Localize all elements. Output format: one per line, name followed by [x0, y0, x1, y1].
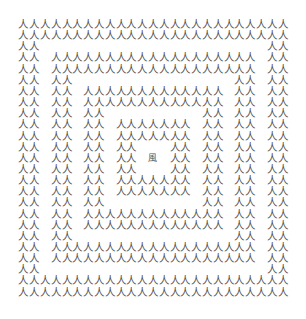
grid-character: 人: [223, 287, 234, 298]
grid-character: 人: [115, 119, 126, 130]
grid-character: 人: [126, 30, 137, 41]
grid-character: 人: [256, 287, 267, 298]
grid-character: 人: [115, 131, 126, 142]
grid-character: 人: [212, 131, 223, 142]
grid-character: 人: [148, 287, 159, 298]
grid-character: 人: [137, 287, 148, 298]
grid-character: 人: [94, 275, 105, 286]
grid-character: 人: [234, 131, 245, 142]
grid-character: 人: [158, 253, 169, 264]
grid-character: 人: [18, 119, 29, 130]
grid-character: 人: [29, 119, 40, 130]
grid-character: 人: [83, 64, 94, 75]
grid-character: 人: [212, 253, 223, 264]
grid-character: 人: [169, 186, 180, 197]
grid-character: 人: [202, 275, 213, 286]
grid-character: 人: [148, 52, 159, 63]
grid-character: 人: [72, 275, 83, 286]
grid-character: 人: [126, 220, 137, 231]
grid-character: 人: [245, 131, 256, 142]
grid-character: 人: [148, 64, 159, 75]
grid-character: 人: [115, 275, 126, 286]
grid-character: 人: [50, 275, 61, 286]
grid-character: 人: [50, 30, 61, 41]
grid-character: 人: [126, 119, 137, 130]
grid-character: 人: [169, 220, 180, 231]
grid-character: 人: [158, 220, 169, 231]
grid-character: 人: [115, 97, 126, 108]
grid-character: 人: [191, 275, 202, 286]
grid-character: 人: [72, 52, 83, 63]
grid-character: 人: [50, 119, 61, 130]
grid-character: 人: [277, 197, 288, 208]
grid-character: 人: [61, 119, 72, 130]
grid-character: 人: [104, 97, 115, 108]
grid-character: 人: [115, 30, 126, 41]
grid-character: 人: [137, 131, 148, 142]
grid-character: 人: [266, 287, 277, 298]
grid-character: 人: [158, 287, 169, 298]
grid-character: 人: [169, 64, 180, 75]
grid-character: 人: [191, 220, 202, 231]
grid-character: 人: [277, 275, 288, 286]
grid-character: 人: [266, 119, 277, 130]
grid-character: 人: [94, 197, 105, 208]
grid-character: 人: [169, 119, 180, 130]
grid-character: 人: [180, 64, 191, 75]
grid-character: 人: [18, 275, 29, 286]
grid-character: 人: [202, 30, 213, 41]
grid-character: 人: [234, 119, 245, 130]
grid-character: 人: [202, 220, 213, 231]
grid-character: 人: [158, 275, 169, 286]
grid-character: 人: [277, 131, 288, 142]
grid-character: 人: [61, 253, 72, 264]
grid-character: 人: [158, 131, 169, 142]
grid-character: 人: [83, 119, 94, 130]
grid-character: 人: [256, 275, 267, 286]
grid-character: 人: [137, 119, 148, 130]
grid-character: 人: [72, 64, 83, 75]
grid-character: 人: [104, 64, 115, 75]
grid-character: 人: [148, 131, 159, 142]
grid-character: 人: [94, 131, 105, 142]
grid-character: 人: [180, 119, 191, 130]
grid-character: 人: [169, 287, 180, 298]
grid-character: 人: [50, 131, 61, 142]
grid-character: 人: [72, 30, 83, 41]
grid-character: 人: [148, 253, 159, 264]
grid-character: 人: [202, 131, 213, 142]
grid-character: 人: [277, 287, 288, 298]
grid-character: 人: [234, 52, 245, 63]
grid-character: 人: [191, 253, 202, 264]
grid-character: 人: [104, 275, 115, 286]
grid-character: 人: [212, 287, 223, 298]
grid-character: 人: [158, 52, 169, 63]
grid-character: 人: [202, 253, 213, 264]
grid-character: 人: [234, 287, 245, 298]
grid-character: 人: [115, 287, 126, 298]
grid-character: 人: [180, 287, 191, 298]
grid-character: 人: [223, 64, 234, 75]
grid-character: 人: [137, 253, 148, 264]
grid-character: 人: [234, 275, 245, 286]
grid-character: 人: [148, 275, 159, 286]
grid-character: 人: [223, 253, 234, 264]
grid-character: 人: [266, 275, 277, 286]
grid-character: 人: [158, 97, 169, 108]
grid-character: 人: [169, 97, 180, 108]
grid-character: 人: [212, 119, 223, 130]
grid-character: 人: [137, 97, 148, 108]
grid-character: 人: [40, 275, 51, 286]
grid-character: 人: [148, 97, 159, 108]
grid-character: 人: [94, 64, 105, 75]
grid-character: 人: [180, 275, 191, 286]
grid-character: 人: [256, 30, 267, 41]
grid-character: 人: [223, 275, 234, 286]
grid-character: 人: [18, 287, 29, 298]
grid-character: 人: [18, 131, 29, 142]
grid-character: 人: [137, 220, 148, 231]
grid-character: 人: [191, 30, 202, 41]
grid-character: 人: [115, 64, 126, 75]
grid-character: 人: [245, 119, 256, 130]
grid-character: 人: [126, 52, 137, 63]
